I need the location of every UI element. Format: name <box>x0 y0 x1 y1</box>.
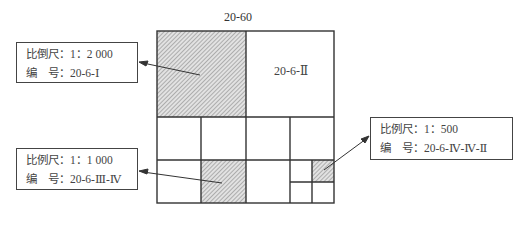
cell-label-20-6-II: 20-6-Ⅱ <box>274 64 308 79</box>
scale-label: 比例尺：1：500 <box>380 120 512 139</box>
scale-label: 比倒尺：1：2 000 <box>26 45 137 64</box>
hatched-sheet-1-500 <box>312 160 334 182</box>
number-label: 编 号：20-6-Ⅲ-Ⅳ <box>26 170 137 189</box>
number-label: 编 号：20-6-Ⅰ <box>26 64 137 83</box>
label-box-1-1000: 比例尺：1：1 000 编 号：20-6-Ⅲ-Ⅳ <box>16 148 138 190</box>
number-label: 编 号：20-6-Ⅳ-Ⅳ-Ⅱ <box>380 139 512 158</box>
hatched-sheet-1-2000 <box>157 31 246 117</box>
scale-label: 比例尺：1：1 000 <box>26 151 137 170</box>
label-box-1-2000: 比倒尺：1：2 000 编 号：20-6-Ⅰ <box>16 42 138 83</box>
label-box-1-500: 比例尺：1：500 编 号：20-6-Ⅳ-Ⅳ-Ⅱ <box>370 117 513 160</box>
